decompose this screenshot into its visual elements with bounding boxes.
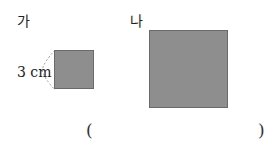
figure-a-dimension: 3 cm (17, 65, 51, 79)
answer-open-paren: ( (86, 122, 93, 139)
square-b (149, 30, 228, 108)
figure-a-label: 가 (17, 14, 30, 28)
answer-blank[interactable] (100, 120, 255, 140)
square-a (54, 50, 94, 89)
figure-b-label: 나 (130, 14, 143, 28)
answer-close-paren: ) (258, 122, 265, 139)
